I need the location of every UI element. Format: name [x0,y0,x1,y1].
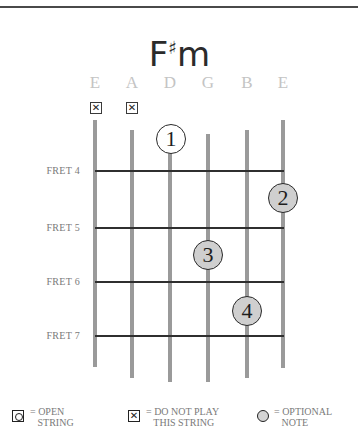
string-name-a: A [122,73,142,93]
legend-optional-note: = OPTIONAL NOTE [274,406,332,428]
fret-label-4: FRET 4 [0,165,80,176]
string-high-e [281,120,285,368]
open-string-icon [12,410,24,422]
fret-line-5 [95,227,284,229]
fret-label-5: FRET 5 [0,222,80,233]
string-name-d: D [160,73,180,93]
mute-x-icon: ✕ [126,102,138,114]
finger-4-marker: 4 [232,296,262,326]
string-name-b: B [237,73,257,93]
legend-do-not-play: = DO NOT PLAY THIS STRING [146,406,219,428]
mute-x-icon: ✕ [90,102,102,114]
fret-label-7: FRET 7 [0,330,80,341]
string-name-high-e: E [273,73,293,93]
chord-quality: m [177,34,209,74]
chord-root: F [149,34,168,74]
fret-line-7 [95,335,284,337]
fret-label-6: FRET 6 [0,276,80,287]
sharp-icon: ♯ [168,37,176,58]
fret-line-6 [95,281,284,283]
string-b [245,130,249,378]
string-name-low-e: E [85,73,105,93]
optional-note-icon [257,410,269,422]
string-low-e [93,120,97,367]
finger-2-marker: 2 [268,183,298,213]
string-name-g: G [198,73,218,93]
legend-open-string: = OPEN STRING [30,406,74,428]
string-d [168,139,172,382]
finger-1-marker: 1 [156,124,186,154]
finger-3-marker: 3 [193,240,223,270]
do-not-play-icon: ✕ [128,410,140,422]
top-rule [0,6,358,8]
fret-line-4 [95,170,284,172]
string-a [130,130,134,378]
chord-title: F♯m [0,30,358,72]
